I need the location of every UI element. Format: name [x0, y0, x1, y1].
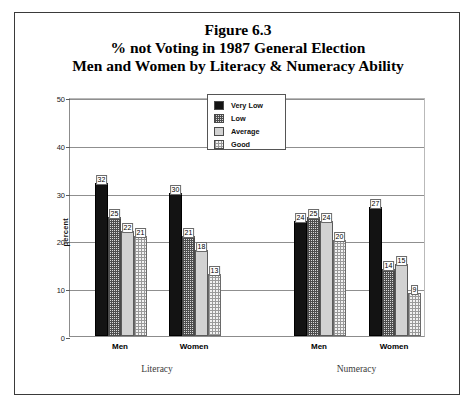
- bar: [169, 193, 182, 336]
- bar-value-label: 24: [321, 213, 333, 223]
- x-axis-category-label: Men: [311, 342, 327, 351]
- y-tick-label: 20: [57, 238, 65, 247]
- bar-value-label: 9: [411, 285, 419, 295]
- y-tick-label: 10: [57, 286, 65, 295]
- bar: [320, 221, 333, 336]
- legend-label-good: Good: [231, 140, 250, 149]
- bar: [121, 231, 134, 336]
- x-axis-category-label: Women: [380, 342, 409, 351]
- x-axis-group-label: Literacy: [141, 364, 173, 374]
- bar: [408, 293, 421, 336]
- bar-value-label: 32: [96, 175, 108, 185]
- legend-swatch-very-low-icon: [214, 101, 224, 110]
- bar: [395, 264, 408, 336]
- legend-swatch-average-icon: [214, 127, 224, 136]
- legend-label-average: Average: [231, 127, 260, 136]
- bar: [382, 269, 395, 336]
- y-tick-mark: [66, 290, 70, 291]
- bar: [195, 250, 208, 336]
- y-tick-mark: [66, 338, 70, 339]
- y-tick-mark: [66, 99, 70, 100]
- bar-value-label: 24: [295, 213, 307, 223]
- bar-value-label: 15: [396, 256, 408, 266]
- x-axis-category-label: Women: [180, 342, 209, 351]
- y-tick-label: 50: [57, 95, 65, 104]
- bar: [333, 240, 346, 336]
- x-axis-group-label: Numeracy: [337, 364, 377, 374]
- legend-item: Low: [214, 112, 285, 124]
- legend-item: Very Low: [214, 99, 285, 111]
- legend-item: Good: [214, 138, 285, 150]
- y-tick-label: 30: [57, 190, 65, 199]
- x-axis-category-label: Men: [112, 342, 128, 351]
- y-tick-label: 0: [61, 334, 65, 343]
- y-tick-mark: [66, 147, 70, 148]
- legend-label-low: Low: [231, 114, 246, 123]
- bar: [294, 221, 307, 336]
- y-tick-label: 40: [57, 142, 65, 151]
- figure-panel: Figure 6.3 % not Voting in 1987 General …: [14, 12, 460, 395]
- chart-legend: Very Low Low Average Good: [207, 94, 286, 150]
- legend-swatch-good-icon: [214, 140, 224, 149]
- y-tick-mark: [66, 195, 70, 196]
- legend-swatch-low-icon: [214, 114, 224, 123]
- legend-item: Average: [214, 125, 285, 137]
- bar-value-label: 25: [109, 209, 121, 219]
- bar: [208, 274, 221, 336]
- bar-value-label: 13: [209, 266, 221, 276]
- bar-value-label: 20: [334, 232, 346, 242]
- bar-value-label: 27: [370, 199, 382, 209]
- gridline: [70, 195, 424, 196]
- title-line-3: Men and Women by Literacy & Numeracy Abi…: [15, 57, 461, 75]
- bar: [369, 207, 382, 336]
- legend-label-very-low: Very Low: [231, 101, 263, 110]
- bar-value-label: 18: [196, 242, 208, 252]
- bar-value-label: 22: [122, 223, 134, 233]
- title-line-2: % not Voting in 1987 General Election: [15, 39, 461, 57]
- title-line-1: Figure 6.3: [15, 21, 461, 39]
- bar-value-label: 21: [183, 228, 195, 238]
- bar: [95, 183, 108, 336]
- figure-title: Figure 6.3 % not Voting in 1987 General …: [15, 21, 461, 75]
- y-tick-mark: [66, 242, 70, 243]
- bar: [307, 217, 320, 337]
- bar: [182, 236, 195, 336]
- bar-value-label: 30: [170, 185, 182, 195]
- bar-value-label: 14: [383, 261, 395, 271]
- bar-value-label: 21: [135, 228, 147, 238]
- bar: [134, 236, 147, 336]
- bar: [108, 217, 121, 337]
- bar-value-label: 25: [308, 209, 320, 219]
